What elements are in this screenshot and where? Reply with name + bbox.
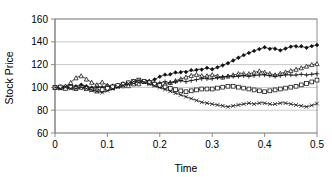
data-point-marker <box>216 86 220 90</box>
data-point-marker <box>216 65 220 69</box>
data-point-marker <box>257 47 261 51</box>
data-point-marker <box>231 59 235 63</box>
x-tick-label: 0.3 <box>205 139 219 150</box>
x-axis-title: Time <box>175 162 198 174</box>
data-point-marker <box>210 87 214 91</box>
data-point-marker <box>294 67 298 71</box>
y-tick-label: 100 <box>31 82 48 93</box>
data-point-marker <box>210 73 214 77</box>
data-point-marker <box>184 70 188 74</box>
data-point-marker <box>168 72 172 76</box>
data-point-marker <box>289 45 293 49</box>
data-point-marker <box>294 73 299 78</box>
data-point-marker <box>184 95 188 99</box>
data-point-marker <box>242 86 246 90</box>
data-point-marker <box>294 84 298 88</box>
data-point-marker <box>299 72 304 77</box>
data-point-marker <box>299 83 303 87</box>
data-point-marker <box>299 66 303 70</box>
data-point-marker <box>189 78 194 83</box>
data-point-marker <box>257 89 261 93</box>
data-point-marker <box>315 71 320 76</box>
data-point-marker <box>305 82 309 86</box>
data-point-marker <box>310 80 314 84</box>
x-tick-label: 0.2 <box>153 139 167 150</box>
data-point-marker <box>226 84 230 88</box>
data-point-marker <box>163 73 167 77</box>
data-point-marker <box>242 53 246 57</box>
y-tick-labels: 6080100120140160 <box>31 14 48 139</box>
data-point-marker <box>205 87 209 91</box>
data-point-marker <box>305 46 309 50</box>
data-point-marker <box>247 87 251 91</box>
data-point-marker <box>273 47 277 51</box>
y-tick-label: 140 <box>31 36 48 47</box>
data-point-marker <box>79 74 83 78</box>
data-point-marker <box>158 75 162 79</box>
data-point-marker <box>174 88 178 92</box>
x-tick-label: 0.4 <box>258 139 272 150</box>
data-point-marker <box>304 73 309 78</box>
x-tick-label: 0.1 <box>100 139 114 150</box>
data-point-marker <box>90 80 94 84</box>
y-tick-label: 80 <box>37 105 49 116</box>
data-point-marker <box>284 47 288 51</box>
data-point-marker <box>184 75 188 79</box>
chart-canvas: 00.10.20.30.40.5 6080100120140160 Time S… <box>0 0 332 177</box>
data-point-marker <box>257 69 261 73</box>
data-point-marker <box>174 71 178 75</box>
data-point-marker <box>163 79 168 84</box>
data-point-marker <box>184 90 188 94</box>
data-point-marker <box>189 97 193 101</box>
data-point-marker <box>294 44 298 48</box>
data-point-marker <box>194 72 198 76</box>
data-point-marker <box>315 62 319 66</box>
data-point-marker <box>100 80 104 84</box>
data-point-marker <box>289 69 293 73</box>
data-point-marker <box>299 44 303 48</box>
data-point-marker <box>309 72 314 77</box>
data-point-marker <box>200 87 204 91</box>
data-point-marker <box>178 78 183 83</box>
data-point-marker <box>263 90 267 94</box>
data-point-marker <box>289 85 293 89</box>
y-tick-label: 60 <box>37 128 49 139</box>
data-point-marker <box>189 73 193 77</box>
data-point-marker <box>237 56 241 60</box>
data-point-marker <box>195 98 199 102</box>
data-point-marker <box>247 51 251 55</box>
data-point-marker <box>278 87 282 91</box>
data-point-marker <box>310 63 314 67</box>
data-point-marker <box>184 79 189 84</box>
data-point-marker <box>194 77 199 82</box>
data-point-marker <box>221 63 225 67</box>
data-point-marker <box>284 86 288 90</box>
data-point-marker <box>315 43 319 47</box>
data-point-marker <box>263 45 267 49</box>
data-point-marker <box>179 70 183 74</box>
data-point-marker <box>210 67 214 71</box>
data-point-marker <box>278 48 282 52</box>
data-point-marker <box>268 47 272 51</box>
data-point-marker <box>273 88 277 92</box>
data-point-marker <box>268 89 272 93</box>
stock-price-chart: 00.10.20.30.40.5 6080100120140160 Time S… <box>0 0 332 177</box>
data-point-marker <box>289 73 294 78</box>
data-point-marker <box>189 89 193 93</box>
y-axis-title: Stock Price <box>3 51 15 104</box>
data-point-marker <box>195 88 199 92</box>
data-point-marker <box>221 85 225 89</box>
x-tick-labels: 00.10.20.30.40.5 <box>52 139 324 150</box>
series-layer <box>53 43 320 109</box>
y-tick-label: 160 <box>31 14 48 25</box>
data-point-marker <box>231 84 235 88</box>
data-point-marker <box>84 77 88 81</box>
data-point-marker <box>189 68 193 72</box>
y-tick-label: 120 <box>31 59 48 70</box>
x-tick-label: 0 <box>52 139 58 150</box>
data-point-marker <box>205 66 209 70</box>
data-point-marker <box>179 93 183 97</box>
data-point-marker <box>179 89 183 93</box>
data-point-marker <box>315 78 319 82</box>
data-point-marker <box>200 68 204 72</box>
